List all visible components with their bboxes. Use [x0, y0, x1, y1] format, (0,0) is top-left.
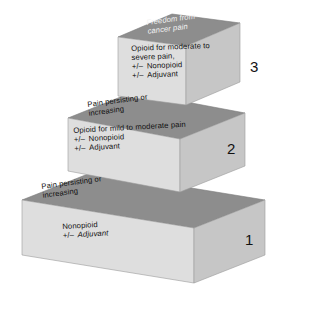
step-1-number: 1 [245, 231, 253, 248]
plus-minus-symbol: +/– [74, 143, 89, 153]
step-2-number: 2 [227, 140, 235, 157]
plus-minus-symbol: +/– [63, 230, 78, 240]
analgesic-ladder-figure: Freedom from cancer pain Opioid for mode… [0, 0, 326, 310]
step-3-front-face-label: Opioid for moderate to severe pain, +/–N… [131, 41, 211, 80]
step-3-number: 3 [250, 58, 258, 75]
step-1-front-face-label: Nonopioid +/–Adjuvant [62, 219, 109, 240]
plus-minus-symbol: +/– [132, 71, 147, 81]
